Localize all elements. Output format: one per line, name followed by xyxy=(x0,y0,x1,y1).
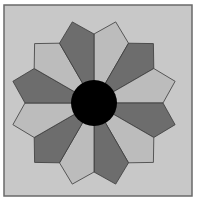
quilt-block-canvas xyxy=(0,0,198,202)
dresden-plate-diagram xyxy=(0,0,198,202)
center-circle xyxy=(71,80,117,126)
